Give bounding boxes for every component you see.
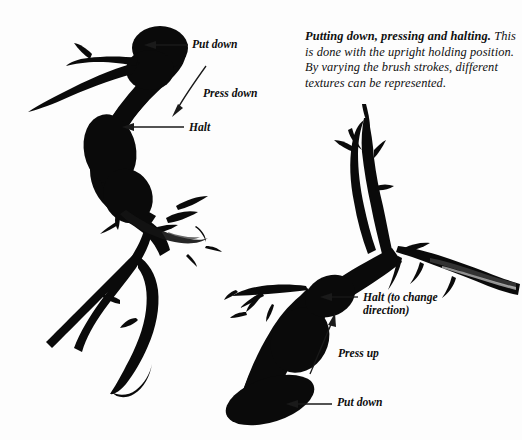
label-press-up: Press up — [338, 347, 379, 360]
label-halt: Halt — [189, 121, 210, 134]
caption-heading: Putting down, pressing and halting. — [305, 29, 491, 43]
label-halt-change-direction: Halt (to change direction) — [363, 291, 438, 318]
label-put-down-bottom: Put down — [337, 396, 382, 409]
illustration-page: Putting down, pressing and halting. This… — [0, 0, 522, 440]
label-press-down: Press down — [203, 87, 257, 100]
label-put-down-top: Put down — [192, 38, 237, 51]
caption-block: Putting down, pressing and halting. This… — [305, 29, 517, 91]
